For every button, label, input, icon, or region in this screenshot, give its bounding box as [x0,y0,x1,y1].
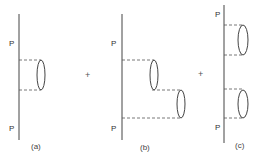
caption-b: (b) [140,143,150,152]
caption-c: (c) [235,141,245,150]
caption-a: (a) [31,142,41,151]
panel-c: P P (c) [215,5,248,150]
panel-a: P P (a) [9,14,45,151]
loop-ellipse-a [37,60,45,90]
loop-ellipse-c-lower [238,90,248,118]
label-p-c-bottom: P [215,123,220,132]
loop-ellipse-c-upper [238,25,248,55]
label-p-a-bottom: P [9,124,14,133]
plus-sign-2: + [198,69,203,79]
loop-ellipse-b-lower [177,90,185,118]
plus-sign-1: + [85,70,90,80]
label-p-c-top: P [215,10,220,19]
feynman-diagram-figure: P P (a) + P P (b) + P P (c) [0,0,256,159]
label-p-a-top: P [9,39,14,48]
label-p-b-bottom: P [111,124,116,133]
loop-ellipse-b-upper [150,60,158,90]
panel-b: P P (b) [111,14,185,152]
label-p-b-top: P [111,39,116,48]
